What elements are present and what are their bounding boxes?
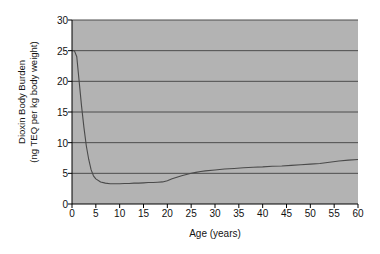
x-axis-tick-label: 15: [138, 208, 149, 219]
x-axis-tick-label: 25: [186, 208, 197, 219]
x-axis-tick-label: 10: [114, 208, 125, 219]
x-axis-tick-label: 50: [305, 208, 316, 219]
x-axis-tick-label: 0: [69, 208, 75, 219]
x-axis-tick-labels: 051015202530354045505560: [72, 208, 358, 222]
x-axis-tick-label: 5: [93, 208, 99, 219]
x-axis-tick-label: 20: [162, 208, 173, 219]
x-axis-title: Age (years): [72, 228, 358, 239]
x-axis-tick-label: 45: [281, 208, 292, 219]
chart-figure: Dioxin Body Burden (ng TEQ per kg body w…: [0, 0, 380, 254]
x-axis-tick-label: 60: [352, 208, 363, 219]
x-axis-tick-label: 30: [209, 208, 220, 219]
x-axis-tick-label: 40: [257, 208, 268, 219]
x-axis-tick-label: 35: [233, 208, 244, 219]
x-axis-tick-label: 55: [329, 208, 340, 219]
